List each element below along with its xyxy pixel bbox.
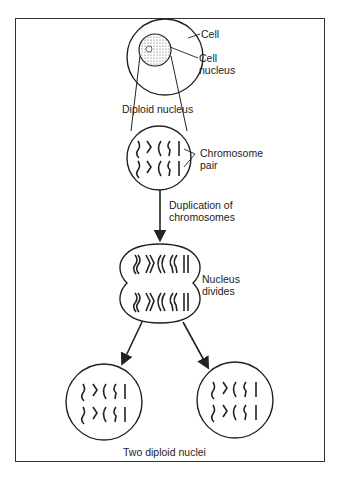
label-cell-nucleus-1: Cell <box>199 52 217 64</box>
label-cell: Cell <box>201 28 219 40</box>
chromosome-set <box>137 141 179 178</box>
arrow-left <box>124 322 142 360</box>
diploid-nucleus <box>127 126 195 190</box>
label-nucleus-divides-1: Nucleus <box>202 273 240 285</box>
cell-nucleus <box>139 34 171 66</box>
label-diploid-nucleus: Diploid nucleus <box>122 103 193 115</box>
label-chromosome-pair-1: Chromosome <box>200 147 263 159</box>
arrow-right <box>183 322 206 364</box>
label-chromosome-pair-2: pair <box>200 159 218 171</box>
label-duplication-2: chromosomes <box>169 211 235 223</box>
dividing-nucleus <box>120 244 200 323</box>
label-nucleus-divides-2: divides <box>202 285 235 297</box>
label-cell-nucleus-2: nucleus <box>199 64 235 76</box>
label-two-diploid-nuclei: Two diploid nuclei <box>123 446 206 458</box>
label-duplication-1: Duplication of <box>169 199 233 211</box>
daughter-nucleus-right <box>197 362 273 438</box>
mitosis-diagram <box>0 0 339 480</box>
daughter-nucleus-left <box>66 364 142 440</box>
